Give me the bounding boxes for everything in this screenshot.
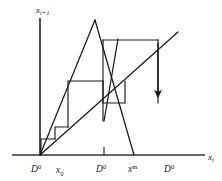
tick-sup: 0: [171, 163, 174, 170]
axes-group: [12, 18, 205, 155]
tick-sup: 0: [103, 163, 106, 170]
x-tick-label-x0: x0: [55, 165, 63, 177]
tick-base: D: [163, 164, 171, 174]
tick-base: D: [30, 164, 38, 174]
y-axis-label: xi+1: [35, 5, 49, 16]
x-tick-label-d0-mid: D0: [95, 163, 106, 174]
secondary-ascending-branch: [104, 39, 118, 121]
x-axis-label-sub: i: [212, 156, 214, 163]
x-tick-label-d0-left: D0: [30, 163, 41, 174]
tick-sup: 0: [38, 163, 41, 170]
cobweb-step-2: [55, 127, 68, 139]
x-tick-labels-group: D0 x0 D0 xm D0: [30, 163, 174, 177]
y-axis-label-sub: i+1: [40, 9, 49, 16]
tick-sub: 0: [60, 170, 63, 177]
diagram-canvas: xi+1 xi D0 x0 D0 xm D0: [0, 0, 222, 181]
x-tick-label-d0-right: D0: [163, 163, 174, 174]
x-tick-label-xm: xm: [127, 163, 137, 174]
tick-sup: m: [132, 163, 137, 170]
tick-base: D: [95, 164, 103, 174]
cobweb-diagram-figure: xi+1 xi D0 x0 D0 xm D0: [0, 0, 222, 181]
x-axis-label: xi: [207, 152, 214, 163]
